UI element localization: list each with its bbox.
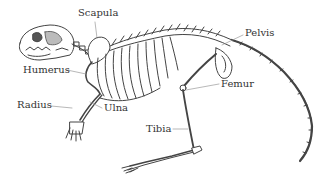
leader-radius	[51, 106, 72, 108]
hind-limb	[122, 54, 216, 173]
pelvis-bone	[215, 48, 232, 78]
spine	[90, 24, 312, 160]
leader-femur	[186, 84, 219, 90]
skeleton-illustration	[0, 0, 328, 181]
skull	[19, 25, 74, 60]
tail-vertebrae	[232, 40, 312, 161]
rat-skeleton-diagram: Scapula Pelvis Humerus Femur Radius Ulna…	[0, 0, 328, 181]
label-radius: Radius	[17, 100, 52, 110]
label-humerus: Humerus	[23, 65, 70, 75]
label-ulna: Ulna	[104, 103, 128, 113]
label-pelvis: Pelvis	[245, 28, 274, 38]
label-scapula: Scapula	[78, 8, 118, 18]
leader-scapula	[95, 22, 97, 38]
label-femur: Femur	[221, 79, 254, 89]
leader-lines	[51, 22, 243, 129]
label-tibia: Tibia	[146, 124, 171, 134]
scapula-bone	[88, 37, 110, 64]
